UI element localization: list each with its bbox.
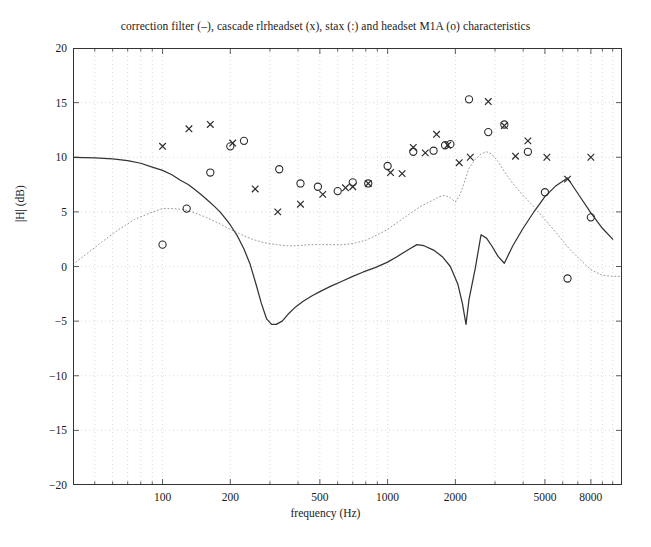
chart-title: correction filter (–), cascade rlrheadse…: [0, 20, 651, 32]
marker-cross: [456, 159, 463, 166]
marker-circle: [430, 147, 437, 154]
y-tick-label: 10: [27, 151, 67, 163]
marker-cross: [207, 121, 214, 128]
marker-cross: [525, 138, 532, 145]
series-markers-o: [159, 96, 595, 282]
marker-circle: [447, 141, 454, 148]
y-tick-label: 0: [27, 261, 67, 273]
marker-circle: [501, 121, 508, 128]
marker-circle: [276, 166, 283, 173]
marker-cross: [485, 98, 492, 105]
x-tick-label: 2000: [444, 491, 467, 503]
y-axis-label: |H| (dB): [14, 206, 26, 222]
marker-circle: [314, 183, 321, 190]
marker-cross: [433, 131, 440, 138]
marker-circle: [207, 169, 214, 176]
x-tick-label: 100: [154, 491, 171, 503]
y-tick-label: −15: [27, 424, 67, 436]
marker-circle: [485, 129, 492, 136]
x-tick-label: 5000: [533, 491, 556, 503]
marker-cross: [186, 126, 193, 133]
series-line-solid: [73, 157, 613, 324]
x-tick-label: 500: [311, 491, 328, 503]
marker-circle: [240, 137, 247, 144]
y-tick-label: 20: [27, 42, 67, 54]
marker-cross: [467, 154, 474, 161]
marker-cross: [342, 185, 349, 192]
axis-box: [74, 49, 622, 485]
marker-circle: [524, 148, 531, 155]
series-line-dotted: [73, 152, 622, 277]
figure-container: correction filter (–), cascade rlrheadse…: [0, 0, 651, 547]
x-tick-label: 1000: [376, 491, 399, 503]
series-markers-x: [159, 98, 594, 215]
marker-cross: [512, 153, 519, 160]
x-axis-label: frequency (Hz): [0, 507, 651, 519]
y-tick-label: 5: [27, 206, 67, 218]
marker-circle: [183, 205, 190, 212]
y-tick-label: 15: [27, 97, 67, 109]
marker-cross: [319, 191, 326, 198]
marker-cross: [252, 186, 259, 193]
marker-circle: [297, 180, 304, 187]
y-tick-label: −5: [27, 315, 67, 327]
x-tick-label: 8000: [579, 491, 602, 503]
chart-svg: [73, 48, 622, 485]
x-tick-label: 200: [222, 491, 239, 503]
plot-area: −20−15−10−505101520 10020050010002000500…: [73, 48, 622, 485]
marker-circle: [410, 148, 417, 155]
marker-cross: [422, 150, 429, 157]
y-tick-label: −10: [27, 370, 67, 382]
marker-circle: [564, 275, 571, 282]
marker-cross: [387, 169, 394, 176]
marker-circle: [465, 96, 472, 103]
y-tick-label: −20: [27, 479, 67, 491]
marker-cross: [399, 170, 406, 177]
marker-cross: [274, 209, 281, 216]
